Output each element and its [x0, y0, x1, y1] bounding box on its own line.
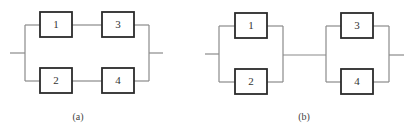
block-label: 1: [53, 18, 59, 30]
block-1: 1: [235, 13, 267, 38]
block-label: 3: [115, 18, 121, 30]
block-4: 4: [102, 68, 134, 93]
block-2: 2: [235, 69, 267, 94]
caption-b: (b): [298, 111, 310, 123]
block-label: 1: [248, 19, 254, 31]
block-label: 3: [354, 19, 360, 31]
block-2: 2: [40, 68, 72, 93]
block-label: 4: [115, 74, 121, 86]
block-3: 3: [341, 13, 373, 38]
diagram-b: 1 2 3 4 (b): [205, 13, 404, 123]
diagram-a: 1 3 2 4 (a): [10, 12, 163, 123]
block-label: 2: [53, 74, 59, 86]
block-3: 3: [102, 12, 134, 37]
caption-a: (a): [72, 111, 83, 123]
reliability-block-diagrams: 1 3 2 4 (a) 1: [0, 0, 412, 130]
block-4: 4: [341, 69, 373, 94]
block-label: 4: [354, 75, 360, 87]
block-label: 2: [248, 75, 254, 87]
block-1: 1: [40, 12, 72, 37]
